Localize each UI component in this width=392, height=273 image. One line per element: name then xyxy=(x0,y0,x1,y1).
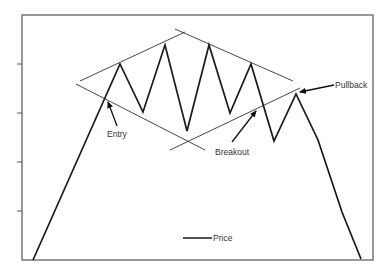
plot-frame xyxy=(22,15,373,260)
upper-right-boundary xyxy=(175,29,293,81)
pullback-arrow xyxy=(300,85,334,92)
breakout-label: Breakout xyxy=(215,147,250,157)
legend-price-label: Price xyxy=(213,233,233,243)
lower-left-boundary xyxy=(76,84,205,150)
breakout-arrow xyxy=(232,111,256,142)
entry-label: Entry xyxy=(107,129,128,139)
legend: Price xyxy=(183,233,233,243)
price-series-line xyxy=(33,45,361,260)
pullback-label: Pullback xyxy=(335,80,368,90)
y-axis-ticks xyxy=(17,64,22,211)
breakout-annotation: Breakout xyxy=(215,111,256,157)
diamond-pattern-chart: Entry Breakout Pullback Price xyxy=(0,0,392,273)
upper-left-boundary xyxy=(80,32,185,81)
pullback-annotation: Pullback xyxy=(300,80,368,92)
entry-arrow xyxy=(108,102,117,126)
entry-annotation: Entry xyxy=(107,102,128,139)
